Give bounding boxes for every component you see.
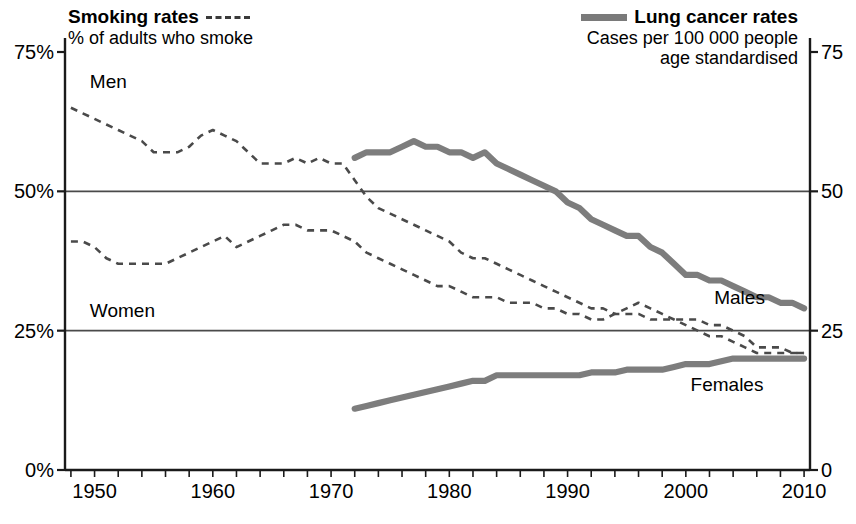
series-line-women	[71, 225, 804, 353]
y-tick-label-left-0%: 0%	[25, 459, 54, 481]
y-tick-label-right-0: 0	[821, 459, 832, 481]
data-series	[71, 108, 804, 409]
y-tick-label-right-50: 50	[821, 180, 843, 202]
y-tick-label-right-75: 75	[821, 41, 843, 63]
series-label-women: Women	[90, 300, 155, 321]
series-line-males	[355, 141, 804, 308]
axis-ticks	[57, 52, 818, 477]
axes	[65, 38, 810, 470]
x-tick-label-1960: 1960	[191, 480, 236, 502]
plot-area: 0%25%50%75%02550751950196019701980199020…	[0, 0, 856, 524]
x-tick-label-1980: 1980	[427, 480, 472, 502]
series-label-males: Males	[714, 287, 765, 308]
x-tick-label-1950: 1950	[72, 480, 117, 502]
series-label-men: Men	[90, 71, 127, 92]
y-tick-label-left-25%: 25%	[14, 320, 54, 342]
series-labels: MenWomenMalesFemales	[90, 71, 765, 395]
tick-labels: 0%25%50%75%02550751950196019701980199020…	[14, 41, 843, 502]
y-tick-label-left-50%: 50%	[14, 180, 54, 202]
x-tick-label-1970: 1970	[309, 480, 354, 502]
series-label-females: Females	[691, 374, 764, 395]
x-tick-label-2000: 2000	[664, 480, 709, 502]
lung-cancer-smoking-chart: Smoking rates % of adults who smoke Lung…	[0, 0, 856, 524]
y-tick-label-left-75%: 75%	[14, 41, 54, 63]
y-tick-label-right-25: 25	[821, 320, 843, 342]
x-tick-label-2010: 2010	[782, 480, 827, 502]
x-tick-label-1990: 1990	[545, 480, 590, 502]
gridlines	[65, 191, 810, 330]
